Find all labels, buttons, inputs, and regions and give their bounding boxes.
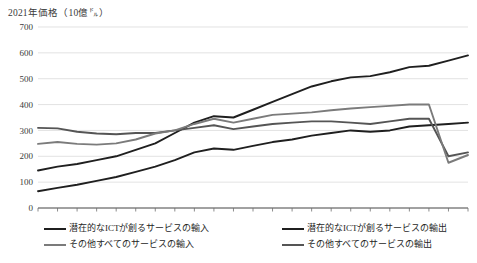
legend-swatch-icon <box>282 244 304 246</box>
legend-label: その他すべてのサービスの輸出 <box>307 240 432 249</box>
y-tick-label: 600 <box>20 48 34 58</box>
legend-swatch-icon <box>44 228 66 230</box>
y-tick-labels: 0100200300400500600700 <box>20 22 34 212</box>
y-tick-label: 500 <box>20 74 34 84</box>
legend-item[interactable]: 潜在的なICTが創るサービスの輸入 <box>44 222 210 235</box>
plot-area: 0100200300400500600700 19992001200320052… <box>0 20 477 212</box>
y-tick-label: 0 <box>29 203 34 212</box>
chart-legend: 潜在的なICTが創るサービスの輸入その他すべてのサービスの輸入 潜在的なICTが… <box>0 222 477 256</box>
legend-swatch-icon <box>44 244 66 246</box>
y-tick-label: 200 <box>20 151 34 161</box>
x-axis <box>38 208 468 212</box>
legend-label: 潜在的なICTが創るサービスの輸入 <box>69 224 210 233</box>
gridlines <box>38 27 468 208</box>
legend-label: その他すべてのサービスの輸入 <box>69 240 194 249</box>
y-tick-label: 100 <box>20 177 34 187</box>
legend-label: 潜在的なICTが創るサービスの輸出 <box>307 224 448 233</box>
legend-column-right: 潜在的なICTが創るサービスの輸出その他すべてのサービスの輸出 <box>282 222 448 251</box>
series-line-0 <box>38 55 468 170</box>
y-tick-label: 300 <box>20 126 34 136</box>
legend-item[interactable]: その他すべてのサービスの輸出 <box>282 238 448 251</box>
y-tick-label: 700 <box>20 22 34 32</box>
legend-item[interactable]: 潜在的なICTが創るサービスの輸出 <box>282 222 448 235</box>
y-axis-title: 2021年価格（10億㌦） <box>8 5 109 19</box>
legend-column-left: 潜在的なICTが創るサービスの輸入その他すべてのサービスの輸入 <box>44 222 210 251</box>
chart-root: 2021年価格（10億㌦） 0100200300400500600700 199… <box>0 0 477 263</box>
chart-svg: 0100200300400500600700 19992001200320052… <box>0 20 477 212</box>
legend-item[interactable]: その他すべてのサービスの輸入 <box>44 238 210 251</box>
series-line-2 <box>38 119 468 156</box>
legend-swatch-icon <box>282 228 304 230</box>
y-tick-label: 400 <box>20 100 34 110</box>
series-lines <box>38 55 468 191</box>
